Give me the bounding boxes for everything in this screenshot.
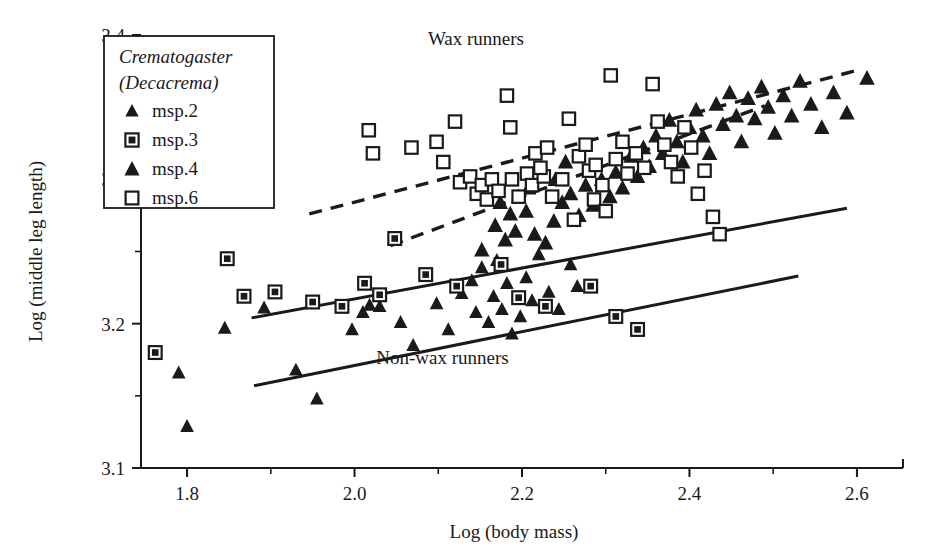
marker-square-dotted-core [339,303,346,310]
marker-square-open [481,193,493,205]
marker-square-dotted-core [587,283,594,290]
marker-square-open [526,179,538,191]
marker-square-open [698,164,710,176]
marker-triangle [508,223,524,238]
marker-square-dotted-core [634,326,641,333]
marker-triangle [826,85,842,100]
marker-square-open [546,190,558,202]
marker-triangle [519,270,533,283]
marker-square-open [563,113,575,125]
marker-triangle [754,79,770,94]
marker-triangle [487,289,501,302]
x-tick-label: 2.6 [845,483,869,504]
marker-square-open [529,147,541,159]
marker-triangle [803,96,819,111]
trendlines [252,71,855,386]
legend-title-genus: Crematogaster [119,46,233,67]
marker-triangle [570,279,584,292]
marker-triangle [172,366,186,379]
marker-square-dotted-core [612,313,619,320]
marker-triangle [542,285,556,298]
marker-square-open [534,162,546,174]
marker-square-dotted-core [241,293,248,300]
marker-square-open [707,211,719,223]
marker-square-dotted-core [361,280,368,287]
marker-triangle [546,213,562,228]
marker-triangle [859,70,875,85]
marker-triangle [513,309,527,322]
marker-triangle [441,322,455,335]
marker-triangle [180,419,194,432]
marker-square-dotted-core [542,303,549,310]
marker-triangle [578,177,594,192]
marker-square-open [651,115,663,127]
marker-triangle [474,242,490,257]
marker-square-open [541,141,553,153]
marker-triangle [289,363,303,376]
marker-triangle [527,226,543,241]
marker-square-open [556,173,568,185]
marker-triangle [469,305,483,318]
marker-triangle [495,302,509,315]
marker-square-dotted-core [391,235,398,242]
marker-triangle [563,186,579,201]
marker-square-open [589,159,601,171]
marker-square-open [492,185,504,197]
marker-triangle [784,108,800,123]
marker-triangle [475,260,489,273]
y-tick-label: 3.1 [101,458,125,479]
legend: Crematogaster(Decacrema)msp.2msp.3msp.4m… [104,36,274,208]
marker-square-open [126,192,139,205]
marker-square-dotted-core [453,283,460,290]
marker-triangle [615,180,631,195]
x-tick-label: 2.2 [510,483,534,504]
marker-square-open [692,188,704,200]
marker-triangle [839,105,855,120]
marker-triangle [722,85,738,100]
marker-triangle [394,315,408,328]
marker-square-dotted-core [224,255,231,262]
marker-triangle [218,321,232,334]
marker-square-open [512,190,524,202]
marker-square-open [646,78,658,90]
marker-triangle [702,145,718,160]
legend-entry-label: msp.2 [152,100,198,121]
marker-square-open [363,124,375,136]
marker-square-open [621,167,633,179]
annotation-label: Wax runners [428,28,524,49]
marker-triangle [257,301,271,314]
marker-square-open [437,156,449,168]
marker-triangle [525,293,539,306]
marker-square-open [506,173,518,185]
marker-square-dotted-core [152,349,159,356]
marker-square-open [464,170,476,182]
x-axis-title: Log (body mass) [450,521,579,543]
marker-triangle [552,302,566,315]
marker-triangle [708,96,724,111]
marker-triangle [345,322,359,335]
marker-square-dotted-core [498,261,505,268]
marker-triangle [792,73,808,88]
marker-square-open [501,89,513,101]
marker-triangle [740,90,756,105]
marker-square-dotted-core [376,291,383,298]
marker-square-dotted-core [272,289,279,296]
marker-square-open [616,136,628,148]
marker-triangle [482,315,496,328]
marker-triangle [500,276,514,289]
legend-entry-label: msp.6 [152,187,198,208]
marker-square-open [658,138,670,150]
marker-square-open [367,147,379,159]
x-tick-label: 2.4 [678,483,702,504]
legend-entry-label: msp.3 [152,129,198,150]
marker-square-open [638,162,650,174]
marker-triangle [487,217,503,232]
series-msp.2 [172,247,584,432]
marker-triangle [814,119,830,134]
marker-triangle [430,296,444,309]
marker-square-open [713,228,725,240]
series-msp.6 [363,69,726,240]
x-tick-label: 2.0 [343,483,367,504]
marker-triangle [558,154,574,169]
annotation-label: Non-wax runners [376,347,508,368]
